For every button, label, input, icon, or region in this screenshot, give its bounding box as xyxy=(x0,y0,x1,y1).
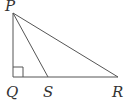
right-angle-marker xyxy=(13,67,23,77)
label-s: S xyxy=(43,83,53,101)
label-r: R xyxy=(111,83,123,101)
segment-pr xyxy=(13,13,118,77)
label-p: P xyxy=(4,0,16,15)
triangle-diagram: P Q S R xyxy=(0,0,130,101)
label-q: Q xyxy=(6,83,18,101)
